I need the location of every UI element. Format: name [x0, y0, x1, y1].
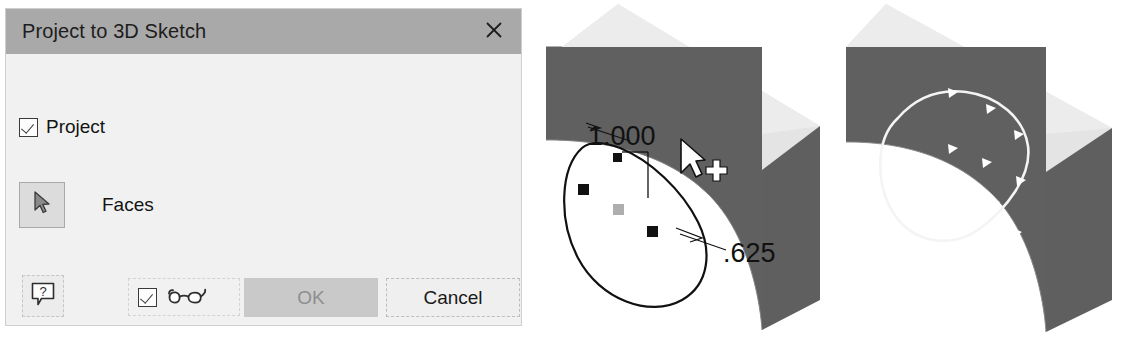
faces-selector-row[interactable]: Faces: [19, 182, 154, 228]
project-checkbox-label: Project: [46, 116, 105, 138]
project-checkbox-row[interactable]: Project: [19, 116, 105, 138]
3d-view-after-projection: [830, 0, 1135, 344]
help-balloon-icon: ?: [30, 281, 56, 311]
project-checkbox[interactable]: [19, 118, 38, 137]
glasses-icon: [166, 286, 212, 308]
faces-select-button[interactable]: [19, 182, 65, 228]
dimension-value-625: .625: [723, 238, 776, 268]
ok-button[interactable]: OK: [244, 278, 378, 317]
close-icon[interactable]: [481, 19, 507, 45]
faces-label: Faces: [102, 194, 154, 216]
dialog-body: Project Faces ?: [6, 54, 521, 325]
project-to-3d-sketch-dialog: Project to 3D Sketch Project: [5, 8, 522, 326]
preview-checkbox[interactable]: [138, 288, 157, 307]
control-point: [647, 226, 658, 237]
preview-toggle-group[interactable]: [128, 278, 240, 316]
screenshot-stage: Project to 3D Sketch Project: [0, 0, 1135, 344]
3d-view-before-projection: 1.000 .625: [530, 0, 840, 344]
cancel-button[interactable]: Cancel: [386, 278, 520, 317]
cursor-arrow-icon: [31, 190, 53, 220]
svg-text:?: ?: [39, 284, 46, 299]
control-point: [613, 153, 622, 162]
dialog-title: Project to 3D Sketch: [22, 20, 206, 43]
dimension-value-1000: 1.000: [588, 121, 656, 151]
control-point: [578, 184, 589, 195]
help-button[interactable]: ?: [22, 275, 64, 317]
control-point-selected: [613, 204, 624, 215]
dialog-titlebar: Project to 3D Sketch: [6, 9, 521, 54]
